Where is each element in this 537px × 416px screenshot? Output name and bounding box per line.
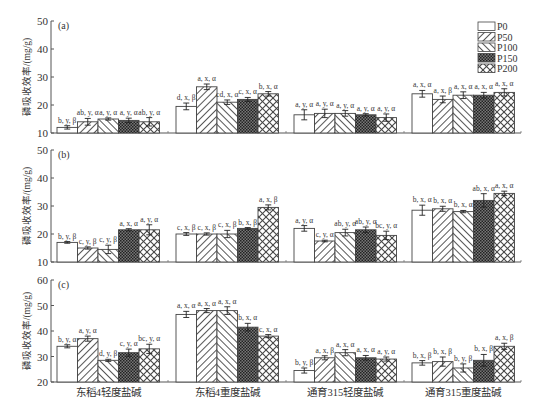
bar-p0 [57, 346, 78, 382]
bar-p0 [294, 228, 315, 262]
bar-p50 [78, 248, 99, 262]
panel-a: 1020304050(a)磷吸收效率/(mg/g)b, y, βab, y, α… [21, 15, 521, 139]
legend-swatch-p150 [478, 54, 495, 63]
significance-label: c, y, β [99, 235, 117, 244]
legend-label: P200 [497, 63, 518, 74]
significance-label: a, x, α [119, 219, 138, 228]
y-tick-label: 40 [37, 43, 49, 55]
bar-p50 [433, 209, 454, 262]
bar-p0 [176, 234, 197, 262]
bar-group: b, y, αa, y, αd, y, βc, y, αbc, y, α [57, 326, 160, 382]
significance-label: a, x, α [413, 80, 432, 89]
significance-label: c, y, α [120, 339, 138, 348]
significance-label: a, x, α [495, 181, 514, 190]
y-axis-label: 磷吸收效率/(mg/g) [21, 292, 33, 371]
significance-label: a, y, α [357, 104, 375, 113]
bar-group: b, y, βab, y, αa, y, αa, y, αab, y, α [57, 108, 160, 133]
y-tick-label: 30 [37, 200, 49, 212]
y-tick-label: 10 [37, 127, 49, 139]
y-tick-label: 50 [37, 300, 49, 312]
bar-group: a, y, αa, y, αa, y, αa, y, αa, y, α [294, 99, 397, 133]
bar-group: b, y, βc, y, βc, y, βa, x, αa, y, α [57, 215, 160, 262]
significance-label: a, y, α [140, 215, 158, 224]
significance-label: c, x, β [177, 223, 196, 232]
significance-label: a, x, α [197, 74, 216, 83]
bar-p0 [57, 242, 78, 262]
bar-p200 [258, 336, 279, 382]
x-category-label: 东稻4轻度盐碱 [76, 386, 142, 398]
x-category-label: 东稻4重度盐碱 [195, 386, 261, 398]
bar-chart-figure: 1020304050(a)磷吸收效率/(mg/g)b, y, βab, y, α… [0, 0, 537, 416]
bar-p150 [119, 353, 140, 382]
bar-p100 [217, 102, 238, 133]
x-category-label: 通育315轻度盐碱 [307, 386, 384, 398]
legend-swatch-p200 [478, 64, 495, 73]
bar-p200 [494, 346, 515, 382]
bar-p100 [98, 360, 119, 382]
significance-label: a, y, α [99, 108, 117, 117]
significance-label: a, y, α [295, 216, 313, 225]
legend-label: P100 [497, 42, 518, 53]
bar-p0 [176, 314, 197, 382]
figure-root: 1020304050(a)磷吸收效率/(mg/g)b, y, βab, y, α… [0, 0, 537, 416]
bar-group: b, x, αb, x, αb, x, αab, x, αa, x, α [412, 181, 515, 262]
panel-b: 1020304050(b)磷吸收效率/(mg/g)b, y, βc, y, βc… [21, 144, 521, 268]
significance-label: a, y, α [336, 101, 354, 110]
y-axis-label: 磷吸收效率/(mg/g) [21, 38, 33, 117]
panel-label: (c) [58, 279, 69, 291]
significance-label: a, x, β [259, 195, 278, 204]
significance-label: bc, y, α [138, 334, 160, 343]
bar-p100 [335, 233, 356, 262]
bar-p100 [217, 311, 238, 382]
significance-label: a, y, α [377, 347, 395, 356]
significance-label: a, x, β [316, 346, 335, 355]
bar-p100 [453, 212, 474, 262]
y-tick-label: 30 [37, 351, 49, 363]
bar-group: b, y, βa, x, βa, x, αa, x, αa, y, α [294, 340, 397, 382]
bar-p200 [494, 92, 515, 133]
significance-label: a, y, α [295, 100, 313, 109]
bar-p150 [474, 200, 495, 262]
significance-label: a, x, β [434, 86, 453, 95]
significance-label: bc, y, α [375, 221, 397, 230]
significance-label: a, x, α [197, 299, 216, 308]
significance-label: a, x, α [356, 345, 375, 354]
significance-label: cd, x, α [216, 90, 238, 99]
legend: P0P50P100P150P200 [478, 21, 518, 74]
bar-p0 [176, 106, 197, 133]
bar-p150 [356, 230, 377, 262]
y-tick-label: 40 [37, 172, 49, 184]
bar-p150 [238, 327, 259, 382]
significance-label: c, x, α [259, 325, 278, 334]
bar-p0 [412, 210, 433, 262]
panel-label: (b) [58, 149, 70, 161]
significance-label: b, x, α [238, 313, 257, 322]
y-tick-label: 40 [37, 325, 49, 337]
significance-label: b, x, β [413, 351, 432, 360]
significance-label: a, y, α [377, 104, 395, 113]
chart-panels: 1020304050(a)磷吸收效率/(mg/g)b, y, βab, y, α… [21, 15, 521, 398]
panel-label: (a) [58, 20, 69, 32]
significance-label: a, y, α [316, 99, 334, 108]
significance-label: d, x, β [177, 93, 196, 102]
bar-p100 [335, 353, 356, 382]
bar-p200 [258, 207, 279, 262]
legend-swatch-p0 [478, 22, 495, 31]
significance-label: b, x, α [259, 82, 278, 91]
bar-p50 [433, 99, 454, 133]
legend-label: P150 [497, 53, 518, 64]
significance-label: b, y, β [295, 358, 314, 367]
x-category-label: 通育315重度盐碱 [425, 386, 502, 398]
bar-group: a, y, αc, y, αab, y, αab, y, αbc, y, α [294, 216, 397, 262]
y-tick-label: 20 [37, 376, 49, 388]
significance-label: a, x, α [336, 340, 355, 349]
bar-p150 [356, 358, 377, 382]
significance-label: a, x, α [454, 82, 473, 91]
significance-label: b, y, β [58, 116, 77, 125]
significance-label: a, y, α [120, 108, 138, 117]
y-tick-label: 10 [37, 256, 49, 268]
bar-p200 [376, 359, 397, 382]
panel-c: 2030405060(c)磷吸收效率/(mg/g)b, y, αa, y, αd… [21, 274, 521, 398]
significance-label: b, x, α [433, 196, 452, 205]
bar-p200 [494, 193, 515, 262]
